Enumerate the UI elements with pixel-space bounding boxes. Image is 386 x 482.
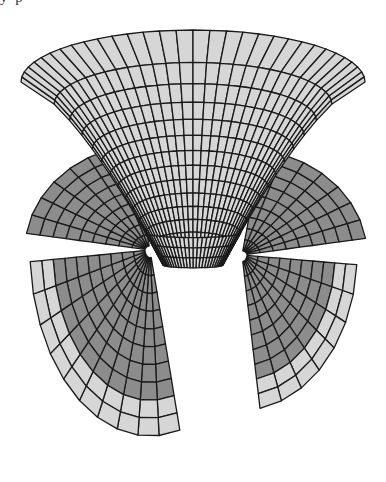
wings-front: [30, 251, 357, 436]
surface-figure: [0, 0, 386, 482]
